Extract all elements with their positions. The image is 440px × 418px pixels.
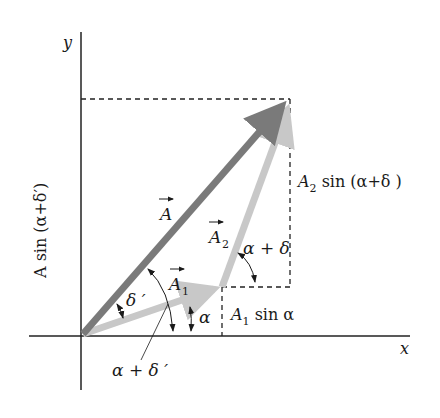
svg-text:A1 sin α: A1 sin α — [229, 305, 294, 328]
label-delta-prime: δ ′ — [126, 290, 146, 310]
label-vector-a1: A 1 — [167, 269, 189, 298]
svg-text:2: 2 — [222, 238, 229, 251]
arc-delta-prime — [117, 304, 123, 318]
label-vector-a: A — [158, 199, 173, 224]
y-axis-label: y — [62, 33, 73, 52]
label-a2-projection: A2 sin (α+δ ) — [296, 172, 402, 195]
label-alpha: α — [199, 307, 211, 327]
svg-text:A: A — [167, 274, 181, 294]
x-axis-label: x — [400, 339, 409, 358]
phasor-diagram: x y A A 2 A 1 δ ′ α α + δ ′ α + δ A sin … — [0, 0, 440, 418]
label-resultant-projection: A sin (α+δ′) — [31, 183, 50, 279]
arc-alpha — [190, 307, 191, 331]
label-a1-projection: A1 sin α — [229, 305, 294, 328]
svg-text:A2 sin (α+δ ): A2 sin (α+δ ) — [296, 172, 402, 195]
svg-text:A: A — [158, 204, 172, 224]
svg-text:1: 1 — [182, 285, 189, 298]
label-alpha-plus-delta: α + δ — [243, 238, 290, 258]
label-vector-a2: A 2 — [207, 222, 229, 251]
label-alpha-plus-delta-prime: α + δ ′ — [112, 360, 168, 380]
svg-text:A: A — [207, 227, 221, 247]
